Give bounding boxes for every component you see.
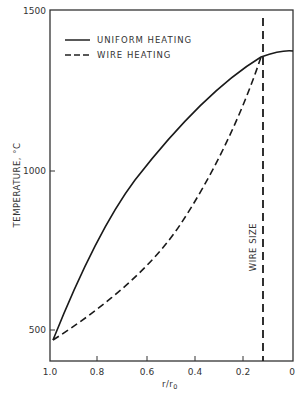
x-tick-label-0: 0 bbox=[289, 367, 295, 377]
x-tick-label-1.0: 1.0 bbox=[43, 367, 58, 377]
x-tick-label-0.2: 0.2 bbox=[236, 367, 250, 377]
x-axis-label: r/r0 bbox=[162, 379, 178, 391]
plot-frame bbox=[50, 10, 293, 361]
uniform-heating-curve bbox=[53, 51, 293, 340]
y-axis-label: TEMPERATURE, °C bbox=[12, 143, 22, 229]
legend-wire-label: WIRE HEATING bbox=[97, 50, 171, 60]
y-tick-label-1500: 1500 bbox=[23, 6, 46, 16]
y-tick-label-500: 500 bbox=[29, 325, 46, 335]
wire-heating-curve bbox=[53, 57, 261, 340]
x-tick-label-0.4: 0.4 bbox=[188, 367, 203, 377]
x-tick-label-0.6: 0.6 bbox=[140, 367, 155, 377]
y-tick-label-1000: 1000 bbox=[23, 166, 46, 176]
wire-size-label: WIRE SIZE bbox=[248, 223, 258, 272]
x-tick-label-0.8: 0.8 bbox=[90, 367, 105, 377]
legend-uniform-label: UNIFORM HEATING bbox=[97, 35, 192, 45]
temperature-chart: 500 1000 1500 1.0 0.8 0.6 0.4 0.2 0 r/r0… bbox=[0, 0, 306, 398]
